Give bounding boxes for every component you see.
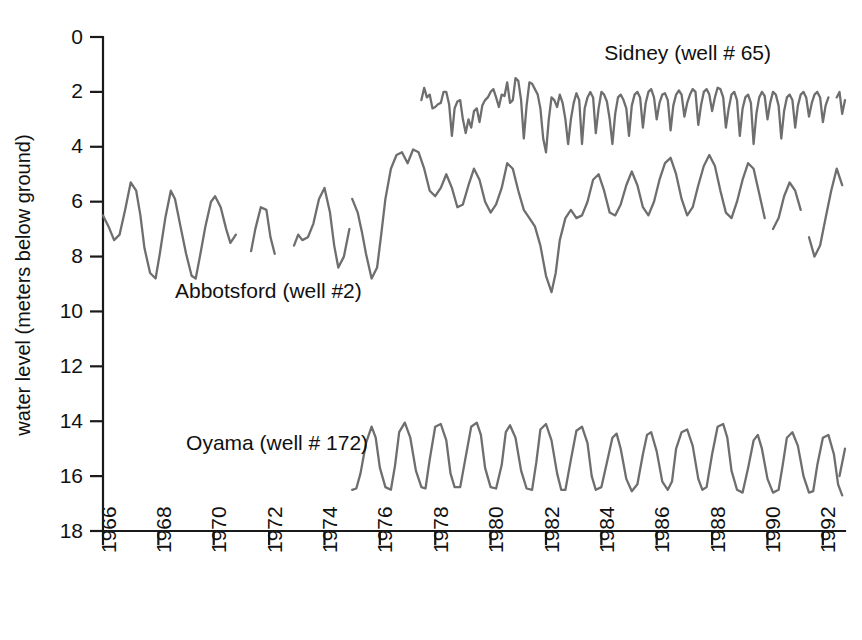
x-tick-label: 1990 [761,506,784,553]
series-line-0-segment-2 [294,188,349,268]
x-tick-label: 1986 [650,506,673,553]
y-tick-label: 6 [71,189,83,212]
series-line-2-segment-1 [840,449,846,476]
y-tick-label: 4 [71,134,83,157]
x-tick-label: 1988 [706,506,729,553]
x-tick-label: 1982 [540,506,563,553]
x-tick-label: 1970 [207,506,230,553]
x-tick-label: 1980 [484,506,507,553]
series-line-0-segment-5 [809,169,842,257]
series-line-0-segment-1 [251,207,275,254]
y-tick-label: 12 [60,354,83,377]
series-label-2: Oyama (well # 172) [186,431,368,454]
y-tick-label: 0 [71,25,83,48]
y-axis-title: water level (meters below ground) [12,134,34,436]
series-line-1-segment-0 [421,78,828,152]
x-tick-label: 1974 [318,506,341,553]
water-level-line-chart: 024681012141618 196619681970197219741976… [0,0,862,640]
chart-container: 024681012141618 196619681970197219741976… [0,0,862,640]
series-label-1: Sidney (well # 65) [604,41,771,64]
x-tick-label: 1984 [595,506,618,553]
x-tick-label: 1992 [816,506,839,553]
series-line-0-segment-3 [352,150,765,293]
series-line-0-segment-4 [773,183,801,230]
y-tick-label: 14 [60,409,84,432]
x-tick-label: 1972 [263,506,286,553]
x-tick-label: 1966 [97,506,120,553]
y-tick-label: 10 [60,299,83,322]
y-tick-label: 18 [60,519,83,542]
y-tick-label: 2 [71,79,83,102]
series-label-0: Abbotsford (well #2) [175,279,362,302]
y-axis-ticks: 024681012141618 [60,25,103,542]
x-tick-label: 1976 [373,506,396,553]
series-line-1-segment-1 [837,92,845,114]
x-tick-label: 1978 [429,506,452,553]
y-tick-label: 8 [71,244,83,267]
x-axis-ticks: 1966196819701972197419761978198019821984… [97,506,840,553]
series-line-2-segment-0 [352,423,842,496]
series-line-0-segment-0 [103,183,236,279]
x-tick-label: 1968 [152,506,175,553]
y-tick-label: 16 [60,464,83,487]
